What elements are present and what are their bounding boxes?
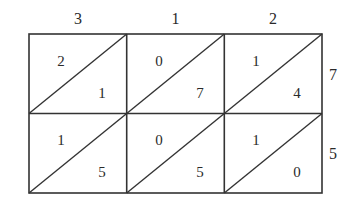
cell-r1c1-ones: 1	[98, 85, 106, 101]
cell-r1c2-tens: 0	[155, 53, 163, 69]
lattice-svg: 3 1 2 7 5 2 1 0 7 1 4 1 5 0 5 1 0	[0, 0, 359, 203]
cell-r1c3-tens: 1	[252, 53, 260, 69]
cell-diagonal-r1c1	[29, 34, 127, 114]
multiplicand-digit-1: 3	[74, 10, 82, 27]
lattice-multiplication-diagram: 3 1 2 7 5 2 1 0 7 1 4 1 5 0 5 1 0	[0, 0, 359, 203]
cell-diagonal-r2c2	[127, 114, 225, 194]
cell-r2c1-tens: 1	[57, 132, 65, 148]
cell-r2c1-ones: 5	[98, 164, 106, 180]
cell-diagonal-r1c3	[224, 34, 322, 114]
cell-diagonal-r1c2	[127, 34, 225, 114]
cell-r1c2-ones: 7	[196, 85, 204, 101]
multiplier-digit-2: 5	[329, 145, 337, 162]
cell-diagonal-r2c1	[29, 114, 127, 194]
cell-r2c3-tens: 1	[252, 132, 260, 148]
multiplicand-digit-3: 2	[269, 10, 277, 27]
multiplier-digit-1: 7	[329, 66, 337, 83]
cell-r2c3-ones: 0	[293, 164, 301, 180]
cell-r1c1-tens: 2	[57, 53, 65, 69]
cell-r2c2-tens: 0	[155, 132, 163, 148]
cell-r2c2-ones: 5	[196, 164, 204, 180]
multiplicand-digit-2: 1	[172, 10, 180, 27]
cell-diagonal-r2c3	[224, 114, 322, 194]
cell-r1c3-ones: 4	[293, 85, 301, 101]
